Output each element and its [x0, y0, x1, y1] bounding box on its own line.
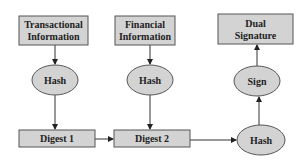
dual-signature-node: Dual Signature [218, 14, 293, 44]
financial-information-node: Financial Information [115, 16, 175, 45]
digest-2-label: Digest 2 [135, 133, 169, 144]
sign-label: Sign [248, 76, 267, 87]
hash-node-2: Hash [127, 65, 173, 95]
hash-node-1: Hash [32, 65, 78, 95]
hash-1-label: Hash [44, 75, 67, 86]
sign-node: Sign [234, 66, 280, 96]
financial-information-line1: Financial [125, 19, 165, 30]
financial-information-line2: Information [119, 31, 172, 42]
dual-signature-line2: Signature [235, 30, 277, 41]
transactional-information-line1: Transactional [24, 19, 83, 30]
dual-signature-diagram: Transactional Information Financial Info… [0, 0, 305, 162]
hash-2-label: Hash [139, 75, 162, 86]
transactional-information-line2: Information [27, 31, 80, 42]
hash-node-3: Hash [237, 125, 285, 155]
digest-2-node: Digest 2 [114, 130, 190, 147]
transactional-information-node: Transactional Information [19, 16, 88, 45]
digest-1-node: Digest 1 [19, 130, 95, 147]
dual-signature-line1: Dual [245, 18, 266, 29]
digest-1-label: Digest 1 [40, 133, 74, 144]
hash-3-label: Hash [250, 135, 273, 146]
